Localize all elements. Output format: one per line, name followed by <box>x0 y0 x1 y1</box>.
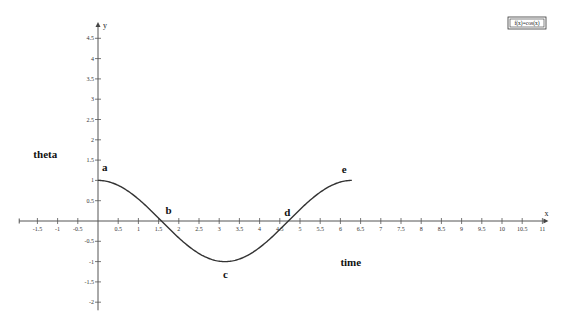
x-tick-label: 1 <box>137 226 140 232</box>
x-tick-label: 1.5 <box>155 226 163 232</box>
x-tick-label: 7 <box>379 226 382 232</box>
x-tick-label: 3 <box>218 226 221 232</box>
x-tick-label: 5 <box>299 226 302 232</box>
y-tick-label: -0.5 <box>85 238 95 244</box>
y-tick-label: 1 <box>91 177 94 183</box>
y-tick-label: 4.5 <box>87 35 95 41</box>
y-tick-label: -1.5 <box>85 279 95 285</box>
x-tick-label: 4 <box>258 226 261 232</box>
y-tick-label: 3.5 <box>87 76 95 82</box>
y-tick-label: 2 <box>91 137 94 143</box>
x-tick-label: -0.5 <box>73 226 83 232</box>
x-tick-label: 3.5 <box>236 226 244 232</box>
x-tick-label: 10.5 <box>517 226 528 232</box>
x-tick-label: 8 <box>420 226 423 232</box>
labels: abcdethetatime <box>33 148 361 280</box>
legend: f(x)=cos(x) <box>508 17 546 29</box>
point-label-d: d <box>284 206 290 218</box>
legend-entry: f(x)=cos(x) <box>514 20 539 27</box>
x-tick-label: 9 <box>460 226 463 232</box>
chart: xy -1.5-1-0.50.511.522.533.544.555.566.5… <box>0 0 563 328</box>
y-axis-name: y <box>103 21 107 30</box>
axes: xy <box>19 21 548 310</box>
x-tick-label: 11 <box>540 226 546 232</box>
point-label-b: b <box>165 204 171 216</box>
x-tick-label: 6 <box>339 226 342 232</box>
point-label-e: e <box>342 163 347 175</box>
x-tick-label: 10 <box>499 226 505 232</box>
x-tick-label: -1 <box>55 226 60 232</box>
point-label-a: a <box>102 161 108 173</box>
x-tick-label: 7.5 <box>397 226 405 232</box>
x-axis-arrow-icon <box>543 219 548 224</box>
annotation-theta: theta <box>33 148 57 160</box>
y-tick-label: 4 <box>91 56 94 62</box>
y-axis-arrow-icon <box>96 22 101 27</box>
x-tick-label: 0.5 <box>114 226 122 232</box>
point-label-c: c <box>223 268 228 280</box>
x-tick-label: 2.5 <box>195 226 203 232</box>
y-tick-label: 3 <box>91 96 94 102</box>
x-tick-label: 5.5 <box>316 226 324 232</box>
y-tick-label: 1.5 <box>87 157 95 163</box>
annotation-time: time <box>340 256 361 268</box>
x-tick-label: 6.5 <box>357 226 365 232</box>
x-tick-label: 2 <box>177 226 180 232</box>
y-tick-label: -1 <box>89 259 94 265</box>
x-tick-label: 8.5 <box>438 226 446 232</box>
y-tick-label: 2.5 <box>87 117 95 123</box>
x-tick-label: 9.5 <box>478 226 486 232</box>
y-tick-label: -2 <box>89 299 94 305</box>
ticks: -1.5-1-0.50.511.522.533.544.555.566.577.… <box>33 35 546 305</box>
y-tick-label: 0.5 <box>87 198 95 204</box>
x-axis-name: x <box>544 209 548 218</box>
x-tick-label: -1.5 <box>33 226 43 232</box>
